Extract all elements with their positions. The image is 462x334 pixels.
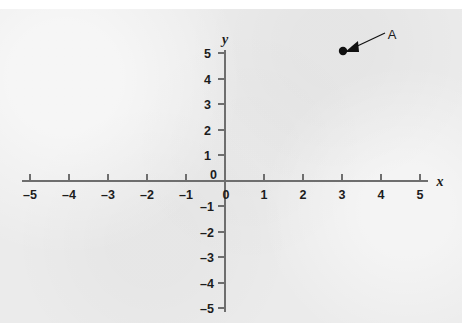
coordinate-plane-plot: –5 –4 –3 –2 –1 0 1 2 3 4 5 5 4 3 2 1 0 –… (0, 0, 462, 334)
x-tick-label-1: 1 (261, 188, 268, 202)
y-tick-label-4: 4 (204, 73, 211, 87)
x-tick-label--2: –2 (140, 188, 154, 202)
y-tick-label--5: –5 (200, 302, 214, 316)
y-tick-label-0: 0 (210, 168, 217, 182)
coordinate-plane-figure: –5 –4 –3 –2 –1 0 1 2 3 4 5 5 4 3 2 1 0 –… (0, 0, 462, 334)
x-tick-label--1: –1 (179, 188, 193, 202)
x-tick-label--3: –3 (101, 188, 115, 202)
x-tick-label-2: 2 (300, 188, 307, 202)
y-tick-label--3: –3 (200, 251, 214, 265)
y-axis-label: y (220, 32, 229, 47)
x-tick-label-5: 5 (417, 188, 424, 202)
y-tick-label-3: 3 (204, 98, 211, 112)
point-label-a: A (388, 27, 397, 42)
annotation-arrow-head-icon (345, 41, 359, 52)
x-tick-label-0: 0 (223, 188, 230, 202)
y-tick-label-2: 2 (204, 124, 211, 138)
data-point-a[interactable] (339, 47, 347, 55)
x-axis-label: x (436, 174, 444, 189)
x-tick-label--4: –4 (62, 188, 76, 202)
y-tick-label-1: 1 (204, 149, 211, 163)
y-tick-label--2: –2 (200, 226, 214, 240)
x-tick-label-3: 3 (339, 188, 346, 202)
x-tick-label--5: –5 (23, 188, 37, 202)
y-tick-label--1: –1 (200, 200, 214, 214)
x-tick-label-4: 4 (378, 188, 385, 202)
x-axis-tick-labels: –5 –4 –3 –2 –1 0 1 2 3 4 5 (23, 188, 423, 202)
y-tick-label-5: 5 (204, 47, 211, 61)
y-tick-label--4: –4 (200, 277, 214, 291)
